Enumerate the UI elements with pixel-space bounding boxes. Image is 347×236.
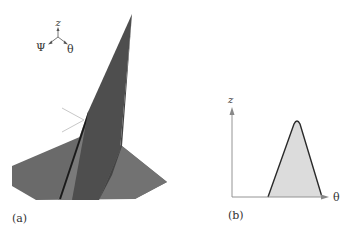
- triad-psi-arrowhead: [48, 41, 53, 45]
- light-ray-upper: [62, 108, 84, 120]
- panel-a-caption: (a): [12, 212, 27, 225]
- triad-z-label: z: [55, 17, 62, 28]
- panel-b-caption: (b): [228, 209, 244, 222]
- panel-a: z Ψ θ (a): [12, 14, 167, 225]
- axes-triad: z Ψ θ: [36, 17, 74, 56]
- z-axis-arrowhead: [230, 107, 235, 115]
- triad-theta-label: θ: [67, 43, 74, 56]
- profile-fill: [268, 121, 322, 197]
- triad-psi-label: Ψ: [36, 41, 46, 54]
- light-ray-lower: [62, 120, 84, 132]
- theta-axis-arrowhead: [321, 195, 329, 200]
- panel-b: z θ (b): [227, 94, 340, 222]
- figure-canvas: z Ψ θ (a) z θ (b): [0, 0, 347, 236]
- theta-axis-label: θ: [333, 191, 340, 204]
- z-axis-label: z: [227, 94, 234, 105]
